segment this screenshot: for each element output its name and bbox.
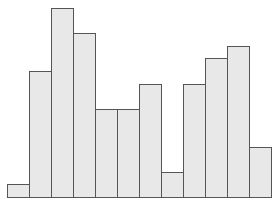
bar-9 [183, 84, 206, 198]
bar-1 [7, 184, 30, 198]
bar-3 [51, 8, 74, 198]
bar-2 [29, 71, 52, 198]
bar-11 [227, 46, 250, 198]
bar-7 [139, 84, 162, 198]
bar-4 [73, 33, 96, 198]
bar-8 [161, 172, 184, 198]
bar-chart [0, 0, 274, 208]
bar-6 [117, 109, 140, 198]
bar-12 [249, 147, 272, 198]
bar-5 [95, 109, 118, 198]
bar-10 [205, 58, 228, 198]
